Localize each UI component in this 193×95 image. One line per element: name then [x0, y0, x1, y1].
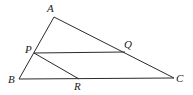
point-label-p: P — [24, 43, 32, 55]
vertex-label-b: B — [8, 73, 15, 85]
diagram-canvas: A B C P Q R — [0, 0, 193, 95]
vertex-label-c: C — [176, 72, 184, 84]
point-label-q: Q — [124, 38, 132, 50]
vertex-label-a: A — [46, 2, 54, 14]
segment-PQ — [34, 52, 125, 53]
point-label-r: R — [73, 80, 81, 92]
segment-PR — [34, 53, 79, 79]
side-AC — [54, 17, 174, 78]
side-BC — [19, 78, 174, 79]
triangle-diagram: A B C P Q R — [0, 0, 193, 95]
